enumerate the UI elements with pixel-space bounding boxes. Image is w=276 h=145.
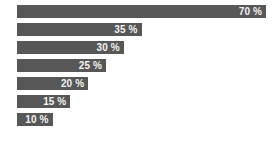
bar-25pct: 25 % bbox=[17, 59, 106, 72]
bar-35pct: 35 % bbox=[17, 23, 142, 36]
bar-chart: 70 %35 %30 %25 %20 %15 %10 % bbox=[0, 0, 276, 145]
bar-20pct: 20 % bbox=[17, 77, 88, 90]
bar-value-label: 30 % bbox=[97, 41, 124, 54]
bar-70pct: 70 % bbox=[17, 5, 266, 18]
bar-10pct: 10 % bbox=[17, 113, 53, 126]
bar-30pct: 30 % bbox=[17, 41, 124, 54]
bar-15pct: 15 % bbox=[17, 95, 70, 108]
bar-value-label: 15 % bbox=[43, 95, 70, 108]
bar-value-label: 35 % bbox=[114, 23, 141, 36]
bar-value-label: 25 % bbox=[79, 59, 106, 72]
bar-value-label: 10 % bbox=[25, 113, 52, 126]
bar-value-label: 70 % bbox=[239, 5, 266, 18]
bar-value-label: 20 % bbox=[61, 77, 88, 90]
